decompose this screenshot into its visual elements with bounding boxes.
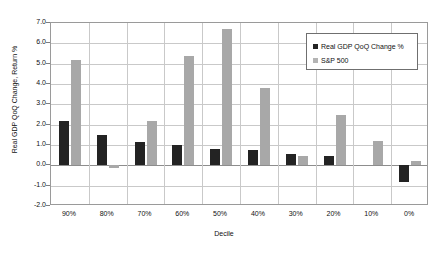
x-axis-title: Decile bbox=[0, 230, 448, 237]
bar-real-gdp-80pct bbox=[97, 135, 107, 166]
x-tick-label: 50% bbox=[201, 210, 239, 218]
bar-real-gdp-30pct bbox=[286, 154, 296, 165]
x-tick-label: 0% bbox=[390, 210, 428, 218]
bar-real-gdp-70pct bbox=[135, 142, 145, 165]
bar-sp500-20pct bbox=[336, 115, 346, 166]
gridline-horizontal bbox=[51, 84, 427, 85]
gridline-horizontal bbox=[51, 104, 427, 105]
bar-sp500-90pct bbox=[71, 60, 81, 166]
bar-sp500-50pct bbox=[222, 29, 232, 165]
y-tick-label: -1.0 bbox=[6, 181, 46, 188]
zero-line bbox=[51, 165, 427, 166]
y-tick-label: -2.0 bbox=[6, 201, 46, 208]
bar-real-gdp-60pct bbox=[172, 145, 182, 165]
gridline-vertical bbox=[89, 23, 90, 204]
bar-real-gdp-20pct bbox=[324, 156, 334, 165]
bar-sp500-60pct bbox=[184, 56, 194, 166]
legend-label-sp500: S&P 500 bbox=[321, 57, 349, 64]
bar-real-gdp-0pct bbox=[399, 165, 409, 181]
x-tick-label: 90% bbox=[50, 210, 88, 218]
bar-sp500-40pct bbox=[260, 88, 270, 165]
x-tick-label: 30% bbox=[277, 210, 315, 218]
x-tick-label: 10% bbox=[352, 210, 390, 218]
legend-swatch-icon-sp500 bbox=[313, 58, 318, 63]
bar-chart: Real GDP QoQ Change, Return % 7.06.05.04… bbox=[0, 0, 448, 270]
y-axis-title: Real GDP QoQ Change, Return % bbox=[11, 20, 18, 180]
gridline-horizontal bbox=[51, 125, 427, 126]
bar-real-gdp-90pct bbox=[59, 121, 69, 166]
gridline-vertical bbox=[127, 23, 128, 204]
x-tick-label: 40% bbox=[239, 210, 277, 218]
bar-sp500-80pct bbox=[109, 165, 119, 168]
gridline-horizontal bbox=[51, 186, 427, 187]
legend-item-sp500: S&P 500 bbox=[313, 53, 417, 67]
legend-item-real-gdp: Real GDP QoQ Change % bbox=[313, 39, 417, 53]
x-tick-label: 70% bbox=[126, 210, 164, 218]
chart-legend: Real GDP QoQ Change % S&P 500 bbox=[306, 33, 418, 70]
gridline-vertical bbox=[202, 23, 203, 204]
bar-sp500-0pct bbox=[411, 161, 421, 165]
x-tick-label: 80% bbox=[88, 210, 126, 218]
x-tick-label: 20% bbox=[315, 210, 353, 218]
x-tick-label: 60% bbox=[163, 210, 201, 218]
legend-label-real-gdp: Real GDP QoQ Change % bbox=[321, 43, 404, 50]
bar-sp500-10pct bbox=[373, 141, 383, 165]
bar-real-gdp-50pct bbox=[210, 149, 220, 165]
bar-sp500-30pct bbox=[298, 156, 308, 165]
y-tick-mark bbox=[46, 205, 50, 206]
gridline-vertical bbox=[278, 23, 279, 204]
bar-sp500-70pct bbox=[147, 121, 157, 166]
legend-swatch-icon-real-gdp bbox=[313, 44, 318, 49]
gridline-vertical bbox=[240, 23, 241, 204]
gridline-horizontal bbox=[51, 145, 427, 146]
bar-real-gdp-40pct bbox=[248, 150, 258, 165]
gridline-vertical bbox=[164, 23, 165, 204]
